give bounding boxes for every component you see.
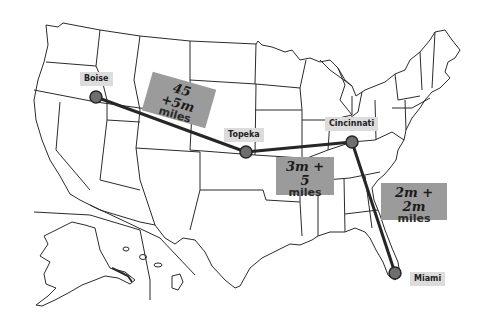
city-dot-cincinnati: [346, 136, 358, 148]
hawaii-island: [123, 247, 129, 251]
city-label-boise: Boise: [80, 72, 113, 86]
distance-unit: miles: [282, 187, 328, 199]
hawaii-island: [172, 274, 183, 290]
distance-expression: 3m + 5: [282, 160, 328, 187]
city-dot-boise: [90, 91, 102, 103]
distance-unit: miles: [387, 213, 441, 225]
city-dot-topeka: [240, 146, 252, 158]
hawaii-island: [154, 263, 162, 267]
city-dot-miami: [389, 267, 401, 279]
city-label-miami: Miami: [410, 272, 445, 286]
distance-box-topeka-cincinnati: 3m + 5 miles: [276, 157, 334, 195]
city-label-cincinnati: Cincinnati: [325, 117, 378, 131]
distance-box-cincinnati-miami: 2m + 2m miles: [381, 183, 447, 220]
distance-expression: 2m + 2m: [387, 186, 441, 213]
city-label-topeka: Topeka: [224, 128, 264, 142]
alaska-outline: [36, 222, 135, 306]
us-map-diagram: Boise Topeka Cincinnati Miami 45 +5m mil…: [0, 0, 484, 321]
